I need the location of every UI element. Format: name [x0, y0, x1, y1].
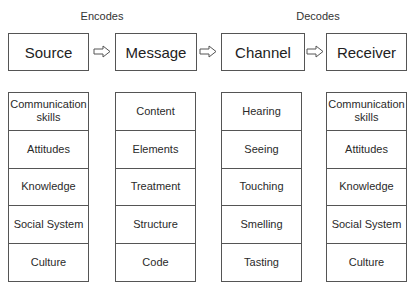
receiver-item: Attitudes: [327, 131, 406, 169]
channel-item: Seeing: [222, 131, 301, 169]
decodes-label: Decodes: [296, 10, 339, 22]
stage-receiver: Receiver: [326, 33, 407, 71]
receiver-column: Communication skills Attitudes Knowledge…: [326, 92, 407, 282]
channel-column: Hearing Seeing Touching Smelling Tasting: [221, 92, 302, 282]
receiver-item: Knowledge: [327, 169, 406, 207]
source-column: Communication skills Attitudes Knowledge…: [8, 92, 89, 282]
encodes-label: Encodes: [81, 10, 124, 22]
source-item: Culture: [9, 244, 88, 281]
stage-source: Source: [8, 33, 89, 71]
message-item: Elements: [116, 131, 195, 169]
stage-channel: Channel: [221, 33, 305, 71]
receiver-item: Culture: [327, 244, 406, 281]
message-item: Content: [116, 93, 195, 131]
source-item: Knowledge: [9, 169, 88, 207]
message-column: Content Elements Treatment Structure Cod…: [115, 92, 196, 282]
message-item: Treatment: [116, 169, 195, 207]
source-item: Social System: [9, 206, 88, 244]
right-arrow-icon: [93, 45, 111, 58]
message-item: Structure: [116, 206, 195, 244]
right-arrow-icon: [306, 45, 324, 58]
receiver-item: Communication skills: [327, 93, 406, 131]
receiver-item: Social System: [327, 206, 406, 244]
stage-message: Message: [115, 33, 197, 71]
source-item: Attitudes: [9, 131, 88, 169]
channel-item: Tasting: [222, 244, 301, 281]
channel-item: Hearing: [222, 93, 301, 131]
channel-item: Smelling: [222, 206, 301, 244]
message-item: Code: [116, 244, 195, 281]
right-arrow-icon: [199, 45, 217, 58]
source-item: Communication skills: [9, 93, 88, 131]
channel-item: Touching: [222, 169, 301, 207]
